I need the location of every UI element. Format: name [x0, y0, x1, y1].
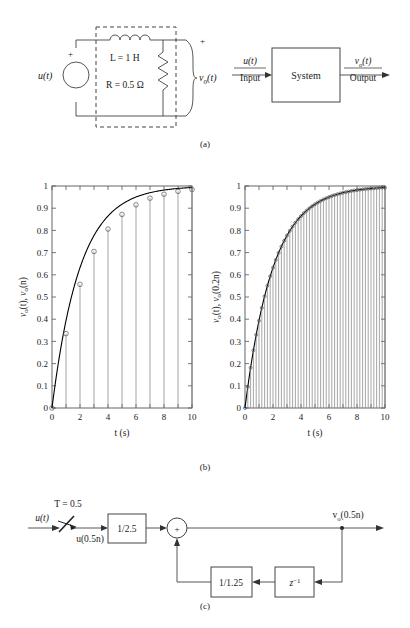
feedback-gain-label: 1/1.25: [219, 578, 243, 588]
system-output-arrowhead-icon: [382, 72, 390, 78]
output-voltage-arg: (t): [207, 72, 217, 84]
x-tick-label: 6: [327, 412, 332, 422]
y-tick-label: 0.3: [230, 337, 242, 347]
summing-junction-plus: +: [174, 524, 179, 534]
source-polarity-plus: +: [68, 49, 73, 59]
unit-delay-label: z−1: [289, 577, 301, 589]
x-tick-label: 10: [381, 412, 391, 422]
y-tick-label: 0.4: [230, 314, 242, 324]
x-tick-label: 2: [271, 412, 276, 422]
x-axis-label: t (s): [114, 428, 129, 439]
y-tick-label: 0: [237, 403, 242, 413]
system-output-label: Output: [350, 73, 377, 83]
y-axis-label: vo(t), vo(0.2n): [211, 271, 222, 323]
caption-c: (c): [0, 601, 410, 611]
circuit-wire-bottom: [76, 102, 186, 116]
y-tick-label: 0.8: [37, 226, 49, 236]
feedback-gain-input-arrowhead-icon: [252, 579, 260, 585]
y-tick-label: 1: [237, 181, 242, 191]
output-port-bracket: [186, 40, 197, 116]
voltage-source-icon: [63, 62, 89, 88]
panel-b-svg: 00.10.20.30.40.50.60.70.80.910246810t (s…: [0, 160, 410, 460]
forward-gain-label: 1/2.5: [117, 524, 137, 534]
y-tick-label: 0.9: [230, 203, 242, 213]
y-tick-label: 0.7: [37, 248, 49, 258]
x-axis-label: t (s): [307, 428, 322, 439]
panel-a-svg: + u(t) L = 1 H R = 0.5 Ω + vo(t) System …: [0, 0, 410, 150]
inductor-icon: [110, 35, 150, 40]
system-input-label: Input: [240, 73, 260, 83]
x-tick-label: 8: [355, 412, 360, 422]
y-tick-label: 0.4: [37, 314, 49, 324]
svg-text:vo(t): vo(t): [199, 72, 217, 86]
sampler-period-label: T = 0.5: [54, 499, 82, 509]
system-input-signal: u(t): [243, 56, 257, 67]
sampler-switch-icon: [58, 516, 76, 532]
source-label: u(t): [38, 70, 53, 82]
output-arrowhead-icon: [376, 525, 384, 531]
unit-delay-exponent: −1: [293, 577, 300, 584]
y-tick-label: 1: [44, 181, 49, 191]
x-tick-label: 10: [188, 412, 198, 422]
y-tick-label: 0.6: [230, 270, 242, 280]
panel-c-block-diagram: u(t) T = 0.5 u(0.5n) 1/2.5 + vo(0.5n): [0, 485, 410, 610]
output-signal-label: vo(0.5n): [332, 510, 363, 522]
y-tick-label: 0.8: [230, 226, 242, 236]
system-output-signal: vo(t): [355, 56, 372, 68]
x-tick-label: 0: [243, 412, 248, 422]
x-tick-label: 8: [162, 412, 167, 422]
y-axis-label: vo(t), vo(n): [18, 277, 29, 317]
circuit-wire-top-left: [76, 40, 110, 48]
chart-left: 00.10.20.30.40.50.60.70.80.910246810t (s…: [18, 181, 197, 439]
output-polarity-plus: +: [200, 36, 205, 46]
sampled-signal-label: u(0.5n): [76, 534, 104, 545]
summer-feedback-arrowhead-icon: [174, 538, 180, 546]
panel-b-charts: 00.10.20.30.40.50.60.70.80.910246810t (s…: [0, 160, 410, 460]
y-tick-label: 0.5: [230, 292, 242, 302]
x-tick-label: 6: [134, 412, 139, 422]
y-tick-label: 0.5: [37, 292, 49, 302]
inductor-label: L = 1 H: [110, 53, 140, 63]
summer-input-arrowhead-icon: [160, 525, 167, 531]
y-tick-label: 0.6: [37, 270, 49, 280]
y-tick-label: 0.1: [230, 381, 241, 391]
dashed-enclosure: [96, 27, 176, 127]
input-signal-label: u(t): [35, 513, 49, 524]
output-voltage-label: vo(t): [199, 72, 217, 86]
resistor-icon: [158, 52, 168, 116]
resistor-label: R = 0.5 Ω: [106, 80, 144, 90]
x-tick-label: 0: [50, 412, 55, 422]
y-tick-label: 0.3: [37, 337, 49, 347]
y-tick-label: 0.7: [230, 248, 242, 258]
y-tick-label: 0.9: [37, 203, 49, 213]
system-output-arg: (t): [362, 56, 371, 67]
y-tick-label: 0.2: [230, 359, 241, 369]
x-tick-label: 4: [106, 412, 111, 422]
x-tick-label: 4: [299, 412, 304, 422]
panel-c-svg: u(t) T = 0.5 u(0.5n) 1/2.5 + vo(0.5n): [0, 485, 410, 610]
y-tick-label: 0.2: [37, 359, 48, 369]
input-arrowhead-icon: [52, 525, 60, 531]
system-input-arrowhead-icon: [265, 72, 272, 78]
x-tick-label: 2: [78, 412, 83, 422]
gain-input-arrowhead-icon: [101, 525, 108, 531]
y-tick-label: 0.1: [37, 381, 48, 391]
caption-a: (a): [0, 139, 410, 149]
panel-a-circuit-and-system: + u(t) L = 1 H R = 0.5 Ω + vo(t) System …: [0, 0, 410, 150]
system-block-label: System: [291, 70, 321, 81]
y-tick-label: 0: [44, 403, 49, 413]
output-arg: (0.5n): [341, 510, 364, 521]
caption-b: (b): [0, 462, 410, 472]
delay-input-arrowhead-icon: [314, 579, 322, 585]
chart-right: 00.10.20.30.40.50.60.70.80.910246810t (s…: [211, 181, 390, 439]
